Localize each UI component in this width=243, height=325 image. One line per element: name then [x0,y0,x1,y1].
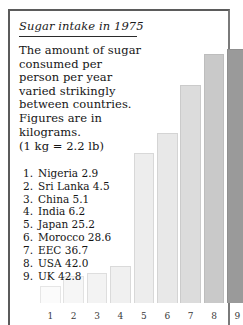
list-item-label: USA 42.0 [38,257,88,269]
x-axis-tick-9: 9 [225,311,243,322]
x-axis-tick-1: 1 [38,311,63,322]
title-underline [19,36,137,37]
list-item: 4.India 6.2 [19,205,145,218]
list-item-label: UK 42.8 [38,270,81,282]
conversion-note: (1 kg = 2.2 lb) [19,140,145,154]
list-item-label: Japan 25.2 [38,218,95,230]
x-axis-tick-2: 2 [61,311,86,322]
bar-9 [227,49,243,303]
list-item: 9.UK 42.8 [19,270,145,283]
list-item-index: 6. [19,231,33,244]
list-item-label: Nigeria 2.9 [38,167,98,179]
list-item-index: 8. [19,257,33,270]
x-axis-tick-6: 6 [155,311,180,322]
x-axis-tick-5: 5 [132,311,157,322]
country-ranking-list: 1.Nigeria 2.92.Sri Lanka 4.53.China 5.14… [19,167,145,283]
bar-8 [204,54,225,303]
list-item-label: Sri Lanka 4.5 [38,180,110,192]
list-item-index: 9. [19,270,33,283]
list-item-label: EEC 36.7 [38,244,88,256]
list-item-index: 5. [19,218,33,231]
figure-description: The amount of sugar consumed per person … [19,44,145,154]
x-axis-tick-8: 8 [202,311,227,322]
list-item-index: 1. [19,167,33,180]
list-item: 5.Japan 25.2 [19,218,145,231]
list-item-index: 7. [19,244,33,257]
bar-6 [157,133,178,303]
list-item: 1.Nigeria 2.9 [19,167,145,180]
list-item-label: India 6.2 [38,205,85,217]
figure-text-column: Sugar intake in 1975 The amount of sugar… [19,19,145,283]
sugar-intake-figure: 123456789 Sugar intake in 1975 The amoun… [8,9,230,325]
list-item-index: 2. [19,180,33,193]
list-item-index: 4. [19,205,33,218]
x-axis-tick-3: 3 [85,311,110,322]
list-item-label: Morocco 28.6 [38,231,111,243]
x-axis-tick-4: 4 [108,311,133,322]
description-paragraph: The amount of sugar consumed per person … [19,44,145,139]
list-item: 7.EEC 36.7 [19,244,145,257]
page-title: Sugar intake in 1975 [19,19,145,33]
x-axis-tick-7: 7 [178,311,203,322]
bar-7 [180,85,201,303]
list-item-label: China 5.1 [38,193,89,205]
list-item: 8.USA 42.0 [19,257,145,270]
bar-1 [40,286,61,303]
list-item-index: 3. [19,193,33,206]
list-item: 3.China 5.1 [19,193,145,206]
list-item: 6.Morocco 28.6 [19,231,145,244]
list-item: 2.Sri Lanka 4.5 [19,180,145,193]
